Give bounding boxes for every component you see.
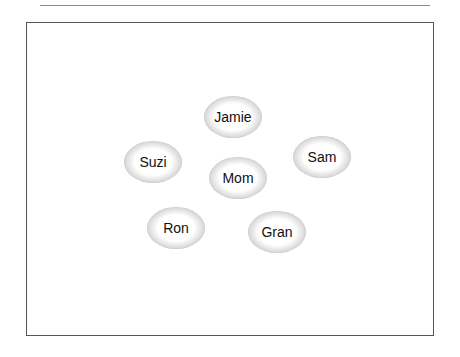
node-label: Mom xyxy=(222,170,253,186)
top-rule xyxy=(40,5,430,6)
node-label: Ron xyxy=(163,220,189,236)
node-label: Jamie xyxy=(214,109,251,125)
node-ron: Ron xyxy=(147,207,205,249)
node-label: Suzi xyxy=(139,154,166,170)
node-jamie: Jamie xyxy=(204,96,262,138)
node-label: Sam xyxy=(308,149,337,165)
node-sam: Sam xyxy=(293,136,351,178)
node-label: Gran xyxy=(261,224,292,240)
node-gran: Gran xyxy=(248,211,306,253)
node-mom: Mom xyxy=(209,157,267,199)
node-suzi: Suzi xyxy=(124,141,182,183)
